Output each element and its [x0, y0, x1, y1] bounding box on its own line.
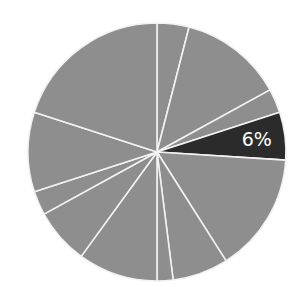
slice-percent-label: 6%: [242, 128, 272, 150]
pie-labels: 6%: [242, 128, 272, 150]
pie-chart: 6%: [0, 0, 302, 287]
pie-slices: [28, 23, 286, 281]
